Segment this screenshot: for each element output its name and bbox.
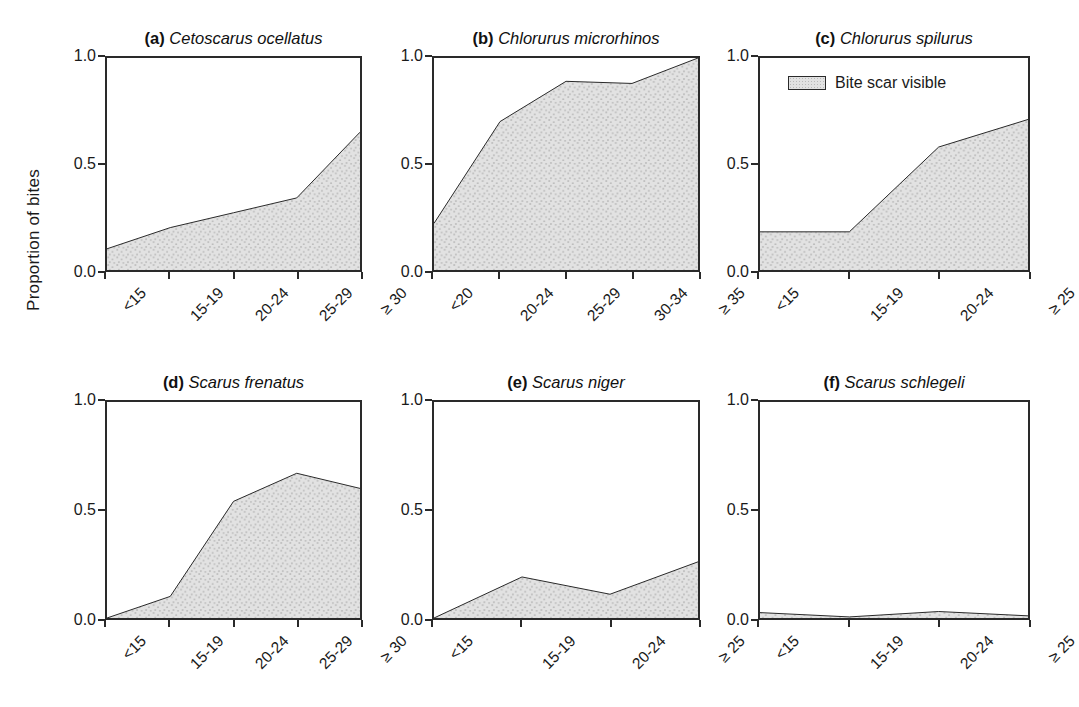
y-tick-label: 0.5 bbox=[401, 155, 423, 173]
x-tick-mark bbox=[104, 272, 106, 279]
y-tick-mark bbox=[98, 55, 105, 57]
x-tick-mark bbox=[848, 620, 850, 627]
area-series bbox=[434, 58, 698, 270]
y-tick-label: 1.0 bbox=[74, 47, 96, 65]
x-tick-label: 15-19 bbox=[187, 632, 228, 673]
x-tick-label: <15 bbox=[119, 632, 150, 663]
x-tick-mark bbox=[699, 272, 701, 279]
y-tick-label: 0.5 bbox=[401, 501, 423, 519]
y-tick-label: 0.5 bbox=[74, 155, 96, 173]
panel-c: (c) Chlorurus spilurus0.00.51.0<1515-192… bbox=[758, 56, 1030, 272]
y-tick-label: 1.0 bbox=[401, 391, 423, 409]
x-tick-mark bbox=[938, 272, 940, 279]
y-tick-label: 0.5 bbox=[727, 501, 749, 519]
x-tick-label: 15-19 bbox=[866, 632, 907, 673]
x-tick-mark bbox=[757, 620, 759, 627]
x-tick-label: <15 bbox=[772, 284, 803, 315]
y-tick-label: 0.0 bbox=[401, 611, 423, 629]
y-tick-label: 0.0 bbox=[401, 263, 423, 281]
x-tick-mark bbox=[520, 620, 522, 627]
panel-d: (d) Scarus frenatus0.00.51.0<1515-1920-2… bbox=[105, 400, 362, 620]
panel-species-name: Scarus frenatus bbox=[189, 373, 305, 391]
y-tick-mark bbox=[751, 55, 758, 57]
panel-b: (b) Chlorurus microrhinos0.00.51.0<2020-… bbox=[432, 56, 700, 272]
area-fill bbox=[434, 562, 698, 618]
area-series bbox=[107, 402, 360, 618]
y-tick-mark bbox=[425, 163, 432, 165]
panel-e: (e) Scarus niger0.00.51.0<1515-1920-24≥ … bbox=[432, 400, 700, 620]
x-tick-mark bbox=[498, 272, 500, 279]
x-tick-label: 20-24 bbox=[517, 284, 558, 325]
panel-species-name: Chlorurus spilurus bbox=[840, 29, 973, 47]
panel-letter: (c) bbox=[815, 29, 835, 47]
y-tick-label: 0.0 bbox=[727, 611, 749, 629]
area-fill bbox=[434, 58, 698, 270]
area-series bbox=[434, 402, 698, 618]
y-tick-mark bbox=[425, 399, 432, 401]
y-tick-mark bbox=[751, 399, 758, 401]
x-tick-label: ≥ 30 bbox=[377, 632, 411, 666]
y-tick-label: 1.0 bbox=[727, 391, 749, 409]
plot-area bbox=[758, 400, 1030, 620]
x-tick-mark bbox=[361, 620, 363, 627]
y-tick-label: 0.5 bbox=[74, 501, 96, 519]
x-tick-mark bbox=[168, 620, 170, 627]
x-tick-mark bbox=[1029, 272, 1031, 279]
y-tick-mark bbox=[751, 163, 758, 165]
x-tick-label: <20 bbox=[446, 284, 477, 315]
y-tick-label: 0.0 bbox=[727, 263, 749, 281]
plot-area bbox=[105, 56, 362, 272]
x-tick-label: 20-24 bbox=[628, 632, 669, 673]
x-tick-mark bbox=[233, 272, 235, 279]
plot-area bbox=[105, 400, 362, 620]
x-tick-label: 20-24 bbox=[251, 632, 292, 673]
x-tick-label: 15-19 bbox=[539, 632, 580, 673]
legend-swatch-icon bbox=[788, 76, 826, 90]
x-tick-label: 25-29 bbox=[315, 632, 356, 673]
x-tick-label: ≥ 25 bbox=[1045, 632, 1079, 666]
x-tick-label: 20-24 bbox=[957, 632, 998, 673]
x-tick-label: ≥ 25 bbox=[1045, 284, 1079, 318]
x-tick-label: 25-29 bbox=[315, 284, 356, 325]
panel-title: (e) Scarus niger bbox=[390, 373, 742, 392]
x-tick-mark bbox=[632, 272, 634, 279]
x-tick-mark bbox=[361, 272, 363, 279]
x-tick-label: 15-19 bbox=[187, 284, 228, 325]
x-tick-mark bbox=[1029, 620, 1031, 627]
x-tick-mark bbox=[610, 620, 612, 627]
x-tick-mark bbox=[297, 272, 299, 279]
x-tick-mark bbox=[565, 272, 567, 279]
area-series bbox=[107, 58, 360, 270]
x-tick-label: 25-29 bbox=[584, 284, 625, 325]
x-tick-label: ≥ 25 bbox=[715, 632, 749, 666]
x-tick-label: <15 bbox=[446, 632, 477, 663]
x-tick-mark bbox=[938, 620, 940, 627]
area-fill bbox=[107, 473, 360, 618]
y-tick-mark bbox=[425, 55, 432, 57]
y-tick-mark bbox=[751, 509, 758, 511]
panel-title: (a) Cetoscarus ocellatus bbox=[63, 29, 404, 48]
area-series bbox=[760, 402, 1028, 618]
x-tick-mark bbox=[233, 620, 235, 627]
x-tick-mark bbox=[757, 272, 759, 279]
x-tick-mark bbox=[431, 272, 433, 279]
plot-area bbox=[432, 56, 700, 272]
panel-letter: (f) bbox=[823, 373, 839, 391]
plot-area bbox=[432, 400, 700, 620]
y-tick-label: 0.0 bbox=[74, 263, 96, 281]
x-tick-mark bbox=[848, 272, 850, 279]
panel-a: (a) Cetoscarus ocellatus0.00.51.0<1515-1… bbox=[105, 56, 362, 272]
x-tick-label: <15 bbox=[119, 284, 150, 315]
area-fill bbox=[760, 119, 1028, 270]
panel-species-name: Chlorurus microrhinos bbox=[498, 29, 659, 47]
y-tick-mark bbox=[98, 399, 105, 401]
y-tick-label: 0.5 bbox=[727, 155, 749, 173]
x-tick-mark bbox=[431, 620, 433, 627]
x-tick-label: 30-34 bbox=[651, 284, 692, 325]
panel-f: (f) Scarus schlegeli0.00.51.0<1515-1920-… bbox=[758, 400, 1030, 620]
x-tick-mark bbox=[699, 620, 701, 627]
panel-letter: (a) bbox=[145, 29, 165, 47]
panel-title: (b) Chlorurus microrhinos bbox=[390, 29, 742, 48]
x-tick-label: ≥ 30 bbox=[377, 284, 411, 318]
